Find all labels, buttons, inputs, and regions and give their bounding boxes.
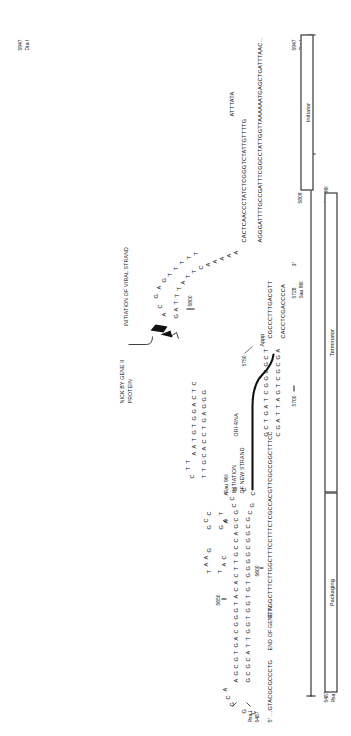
- base: T: [262, 398, 268, 401]
- base: T: [232, 602, 238, 605]
- base: G: [262, 432, 268, 436]
- base: G: [244, 587, 250, 591]
- base: G: [274, 425, 280, 429]
- label-initiation-viral-strand: INITIATION OF VIRAL STRAND: [122, 246, 128, 326]
- base: C: [249, 710, 255, 714]
- label-coord-5487-bottom: 5487: [322, 691, 328, 702]
- sequence-appp-strand: CGCCCTTTGACGTT: [266, 280, 272, 338]
- base: A: [221, 518, 227, 522]
- base: T: [172, 267, 178, 270]
- base: G: [217, 525, 223, 529]
- base: G: [244, 608, 250, 612]
- domain-bar-initiator[interactable]: Initiator: [300, 34, 313, 190]
- base: T: [173, 294, 179, 297]
- base: C: [262, 425, 268, 429]
- base: A: [232, 531, 238, 535]
- tick-5800: [186, 308, 194, 309]
- base: T: [192, 252, 198, 255]
- base: A: [221, 687, 227, 691]
- base: G: [262, 383, 268, 387]
- base: G: [200, 390, 206, 394]
- base: G: [262, 411, 268, 415]
- label-sau96i-left: Sau 96I: [222, 474, 228, 493]
- base: G: [232, 671, 238, 675]
- base: T: [274, 405, 280, 408]
- base: G: [262, 362, 268, 366]
- base: C: [200, 439, 206, 443]
- base: T: [244, 616, 250, 619]
- domain-bar-packaging-label: Packaging: [325, 493, 336, 691]
- base: G: [200, 404, 206, 408]
- base: G: [232, 657, 238, 661]
- base: T: [244, 595, 250, 598]
- label-coord-5700: 5700: [290, 395, 296, 406]
- base: G: [205, 525, 211, 529]
- figure-canvas: Rsa I 5487 5' ...GTACGCGCCCTG END OF GEN…: [0, 0, 351, 736]
- label-coord-5650: 5650: [214, 594, 220, 605]
- base: G: [274, 355, 280, 359]
- base: T: [274, 412, 280, 415]
- base: G: [172, 314, 178, 318]
- label-initiation-new-strand-line2: OF NEW STRAND: [238, 447, 244, 493]
- base: G: [244, 531, 250, 535]
- base: T: [190, 270, 196, 273]
- base: C: [246, 510, 252, 514]
- base: C: [197, 265, 203, 269]
- base: T: [184, 460, 190, 463]
- base: G: [232, 510, 238, 514]
- base: G: [244, 678, 250, 682]
- base: A: [232, 580, 238, 584]
- base: T: [217, 512, 223, 515]
- base: C: [232, 629, 238, 633]
- base: A: [232, 594, 238, 598]
- base: T: [216, 570, 222, 573]
- base: G: [190, 409, 196, 413]
- base: A: [232, 250, 238, 254]
- label-dra-i-top: Dra I: [23, 39, 29, 50]
- base: C: [244, 671, 250, 675]
- base: C: [232, 545, 238, 549]
- base: G: [228, 702, 234, 706]
- base: G: [200, 460, 206, 464]
- label-initiation-new-strand-line1: INITIATION: [230, 464, 236, 493]
- sequence-right-strand-long: AGGGATTTTGCCGATTTCGGCCTATTGGTTAAAAAATGAG…: [256, 37, 262, 242]
- base: C: [232, 587, 238, 591]
- base: A: [262, 404, 268, 408]
- base: G: [248, 503, 254, 507]
- base: A: [232, 678, 238, 682]
- base: G: [244, 538, 250, 542]
- label-appp: Appp: [258, 333, 264, 346]
- base: A: [244, 650, 250, 654]
- sequence-mid-strand: CACCTCGACCCCA: [279, 283, 285, 338]
- base: C: [200, 432, 206, 436]
- base: T: [232, 560, 238, 563]
- base: G: [200, 397, 206, 401]
- base: T: [190, 438, 196, 441]
- base: T: [205, 570, 211, 573]
- base: C: [200, 453, 206, 457]
- base: G: [205, 548, 211, 552]
- base: G: [244, 552, 250, 556]
- base: C: [244, 524, 250, 528]
- base: T: [172, 301, 178, 304]
- hairpin-connector-lines: [0, 0, 351, 736]
- base: A: [274, 397, 280, 401]
- base: A: [190, 444, 196, 448]
- base: C: [205, 511, 211, 515]
- base: C: [190, 395, 196, 399]
- base: G: [232, 615, 238, 619]
- base: G: [190, 430, 196, 434]
- base: C: [230, 503, 236, 507]
- base: T: [232, 567, 238, 570]
- base: G: [232, 608, 238, 612]
- base: A: [274, 348, 280, 352]
- base: C: [228, 496, 234, 500]
- base: C: [262, 369, 268, 373]
- base: G: [200, 418, 206, 422]
- base: C: [202, 518, 208, 522]
- tick-5700: [293, 385, 294, 391]
- base: A: [200, 411, 206, 415]
- domain-bar-terminator[interactable]: Terminator: [324, 192, 337, 492]
- domain-bar-packaging[interactable]: Packaging: [324, 492, 337, 692]
- label-three-prime: 3': [290, 261, 296, 266]
